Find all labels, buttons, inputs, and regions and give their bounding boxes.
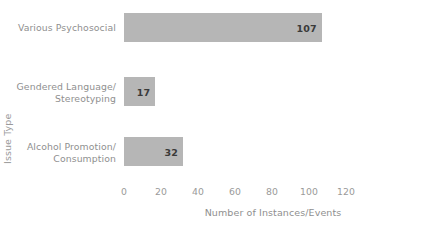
bar-row: 32 [124, 137, 183, 166]
category-label-line: Alcohol Promotion/ [0, 141, 116, 153]
x-tick-label: 100 [289, 186, 329, 197]
category-label-alcohol-promotion-consumption: Alcohol Promotion/ Consumption [0, 141, 116, 164]
x-tick-label: 80 [252, 186, 292, 197]
x-axis-tick-labels: 0 20 40 60 80 100 120 [124, 186, 422, 200]
bar-value-label: 17 [137, 86, 151, 97]
category-label-gendered-language-stereotyping: Gendered Language/ Stereotyping [0, 81, 116, 104]
bar-chart: Issue Type Various Psychosocial Gendered… [0, 0, 427, 234]
category-label-line: Stereotyping [0, 93, 116, 105]
bar-alcohol-promotion-consumption[interactable]: 32 [124, 137, 183, 166]
x-tick-label: 0 [104, 186, 144, 197]
category-label-line: Various Psychosocial [0, 22, 116, 34]
bar-row: 107 [124, 13, 322, 42]
bar-various-psychosocial[interactable]: 107 [124, 13, 322, 42]
category-label-line: Consumption [0, 153, 116, 165]
bar-value-label: 107 [297, 22, 317, 33]
bar-gendered-language-stereotyping[interactable]: 17 [124, 77, 155, 106]
bar-row: 17 [124, 77, 155, 106]
plot-area: 107 17 32 [124, 0, 422, 180]
x-tick-label: 60 [215, 186, 255, 197]
x-tick-label: 120 [326, 186, 366, 197]
x-tick-label: 20 [141, 186, 181, 197]
category-label-various-psychosocial: Various Psychosocial [0, 22, 116, 34]
x-axis-title: Number of Instances/Events [124, 207, 422, 218]
category-axis-labels: Various Psychosocial Gendered Language/ … [0, 0, 120, 180]
category-label-line: Gendered Language/ [0, 81, 116, 93]
bar-value-label: 32 [165, 146, 179, 157]
x-tick-label: 40 [178, 186, 218, 197]
